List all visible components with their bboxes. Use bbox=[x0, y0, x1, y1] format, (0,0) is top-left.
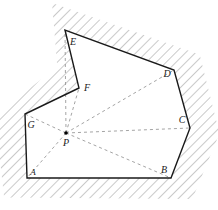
figure-canvas bbox=[0, 0, 218, 210]
vertex-label-a: A bbox=[30, 167, 36, 177]
geometry-figure: ABCDEFGP bbox=[0, 0, 218, 210]
vertex-label-f: F bbox=[84, 83, 90, 93]
vertex-label-e: E bbox=[70, 37, 76, 47]
point-p-marker bbox=[64, 131, 68, 135]
vertex-label-c: C bbox=[179, 115, 186, 125]
point-label-p: P bbox=[63, 138, 69, 148]
vertex-label-b: B bbox=[161, 165, 167, 175]
vertex-label-g: G bbox=[27, 120, 34, 130]
vertex-label-d: D bbox=[163, 69, 170, 79]
